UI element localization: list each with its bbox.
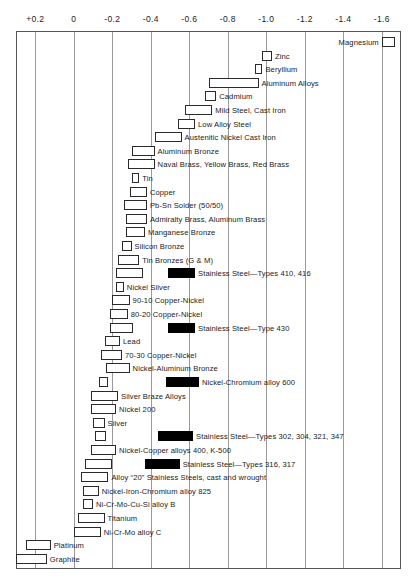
gridline [343,32,344,568]
gridline [382,32,383,568]
gridline [112,32,113,568]
plot-frame [16,31,401,569]
axis-tick-label: -0.4 [143,14,159,24]
gridline [74,32,75,568]
axis-tick-label: -1.2 [297,14,313,24]
x-axis-tick-labels: +0.20-0.2-0.4-0.6-0.8-1.0-1.2-1.4-1.6 [0,0,417,30]
axis-tick-label: -0.8 [220,14,236,24]
gridline [266,32,267,568]
axis-tick-label: +0.2 [26,14,44,24]
axis-tick-label: 0 [71,14,76,24]
axis-tick-label: -0.2 [104,14,120,24]
axis-tick-label: -1.4 [335,14,351,24]
galvanic-series-chart: +0.20-0.2-0.4-0.6-0.8-1.0-1.2-1.4-1.6 Ma… [0,0,417,586]
gridline [189,32,190,568]
gridline [228,32,229,568]
gridline [305,32,306,568]
axis-tick-label: -0.6 [181,14,197,24]
gridline [151,32,152,568]
gridline [35,32,36,568]
axis-tick-label: -1.6 [374,14,390,24]
axis-tick-label: -1.0 [258,14,274,24]
